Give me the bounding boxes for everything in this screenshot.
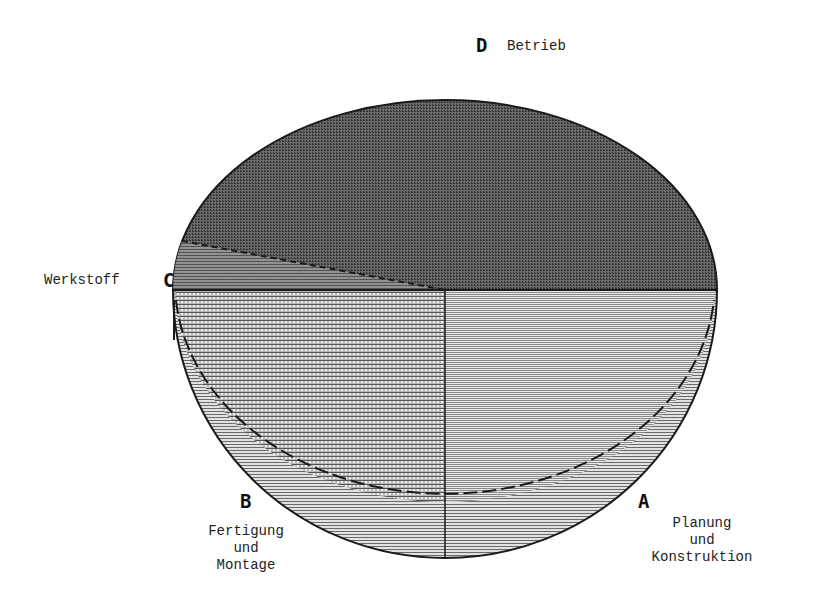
label-b-line1: Fertigung xyxy=(208,523,284,539)
label-letter-c: C xyxy=(163,269,174,291)
slice-b xyxy=(175,290,445,502)
label-letter-b: B xyxy=(240,490,251,512)
label-a-line2: und xyxy=(689,532,714,548)
slice-a xyxy=(445,290,715,502)
label-werkstoff: Werkstoff xyxy=(44,272,120,288)
label-b-line3: Montage xyxy=(217,557,276,573)
pie-chart: D Betrieb Werkstoff C B Fertigung und Mo… xyxy=(0,0,816,604)
label-a-line1: Planung xyxy=(673,515,732,531)
label-b-line2: und xyxy=(233,540,258,556)
label-letter-d: D xyxy=(476,34,487,56)
label-a-line3: Konstruktion xyxy=(652,549,753,565)
label-betrieb: Betrieb xyxy=(507,38,566,54)
label-letter-a: A xyxy=(638,490,650,512)
